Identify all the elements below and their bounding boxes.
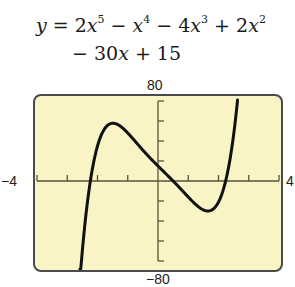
- ymax-label: 80: [147, 77, 163, 93]
- xmax-label: 4: [286, 173, 294, 189]
- ymin-label: −80: [146, 271, 170, 287]
- xmin-label: −4: [1, 173, 17, 189]
